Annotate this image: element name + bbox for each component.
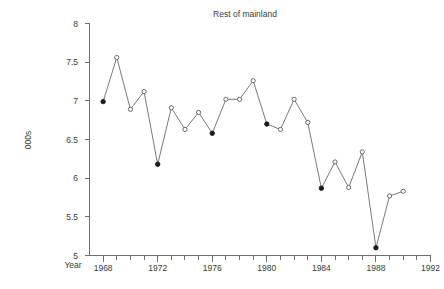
- data-point-marker: [169, 106, 173, 110]
- y-tick-label: 7.5: [66, 57, 78, 67]
- y-tick-label: 8: [73, 19, 78, 29]
- data-point-marker: [306, 120, 310, 124]
- data-point-marker: [347, 185, 351, 189]
- y-axis-ticks: 87.576.565.55: [66, 19, 89, 261]
- data-point-marker: [224, 97, 228, 101]
- y-tick-label: 5.5: [66, 212, 78, 222]
- y-tick-label: 7: [73, 96, 78, 106]
- data-point-marker: [183, 127, 187, 131]
- data-point-marker: [333, 160, 337, 164]
- line-chart: Rest of mainland 000s Year 87.576.565.55…: [0, 0, 444, 289]
- data-point-marker: [101, 99, 105, 103]
- data-point-marker: [142, 89, 146, 93]
- data-point-marker: [319, 186, 323, 190]
- chart-title: Rest of mainland: [213, 9, 277, 19]
- data-point-marker: [115, 55, 119, 59]
- data-point-marker: [278, 127, 282, 131]
- y-tick-label: 6.5: [66, 135, 78, 145]
- data-point-marker: [401, 189, 405, 193]
- data-point-marker: [292, 97, 296, 101]
- y-tick-label: 5: [73, 251, 78, 261]
- data-point-marker: [156, 162, 160, 166]
- x-tick-label: 1984: [312, 263, 331, 273]
- x-tick-label: 1972: [148, 263, 167, 273]
- y-tick-label: 6: [73, 173, 78, 183]
- data-point-marker: [210, 131, 214, 135]
- x-axis-title: Year: [64, 260, 81, 270]
- data-point-marker: [128, 107, 132, 111]
- x-axis-ticks: 1968197219761980198419881992: [94, 256, 441, 274]
- chart-container: Rest of mainland 000s Year 87.576.565.55…: [0, 0, 444, 289]
- data-point-marker: [374, 246, 378, 250]
- data-point-markers: [101, 55, 405, 250]
- data-point-marker: [265, 122, 269, 126]
- x-tick-label: 1980: [257, 263, 276, 273]
- x-tick-label: 1968: [94, 263, 113, 273]
- x-tick-label: 1988: [366, 263, 385, 273]
- data-point-marker: [197, 110, 201, 114]
- data-point-marker: [360, 150, 364, 154]
- data-point-marker: [387, 194, 391, 198]
- x-tick-label: 1976: [203, 263, 222, 273]
- y-axis-title: 000s: [23, 131, 33, 149]
- data-series-line: [103, 58, 403, 248]
- data-point-marker: [251, 79, 255, 83]
- data-point-marker: [237, 97, 241, 101]
- x-tick-label: 1992: [421, 263, 440, 273]
